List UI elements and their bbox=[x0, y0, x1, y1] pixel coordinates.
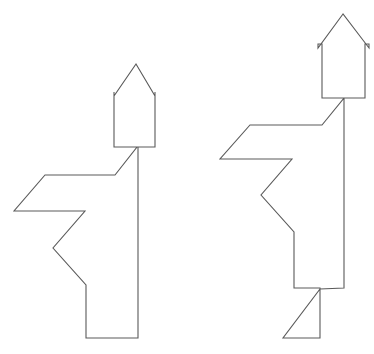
drawing-canvas bbox=[0, 0, 374, 354]
figure-svg bbox=[0, 0, 374, 354]
canvas-background bbox=[0, 0, 374, 354]
